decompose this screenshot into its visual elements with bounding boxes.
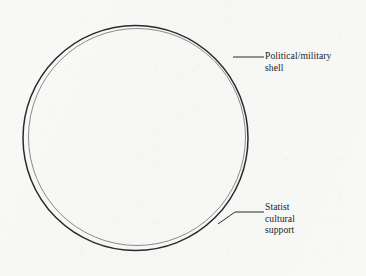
concentric-circles-graphic: [0, 0, 366, 276]
statist-cultural-support-label: Statist cultural support: [265, 201, 295, 236]
shell-label-line-2: shell: [265, 62, 331, 74]
support-leader-line: [218, 212, 264, 224]
support-label-line-3: support: [265, 224, 295, 236]
outer-ring-political-military-shell: [23, 26, 248, 251]
diagram-canvas: Political/military shell Statist cultura…: [0, 0, 366, 276]
political-military-shell-label: Political/military shell: [265, 50, 331, 73]
support-label-line-1: Statist: [265, 201, 295, 213]
shell-label-line-1: Political/military: [265, 50, 331, 62]
support-label-line-2: cultural: [265, 213, 295, 225]
inner-ring-statist-cultural-support: [29, 29, 246, 246]
